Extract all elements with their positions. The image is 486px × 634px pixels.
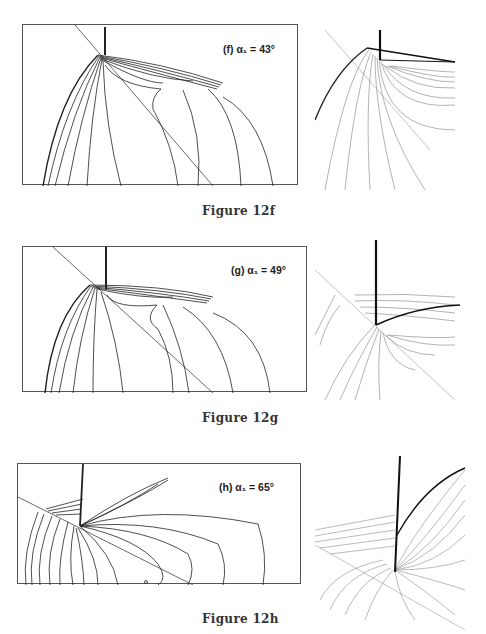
figure-12g-panel-label: (g) α₁ = 49° [231,264,286,276]
figure-12f: (f) α₁ = 43° Figure 12f [0,0,486,225]
figure-12h-caption: Figure 12h [202,612,279,626]
figure-12f-detail-contours [315,20,485,200]
figure-12h-panel-label: (h) α₁ = 65° [219,481,274,493]
figure-12g-contour-plot: (g) α₁ = 49° [22,246,307,392]
figure-12h-detail-contours [315,450,485,630]
figure-12g-detail-contours [315,235,485,415]
figure-12h-contour-plot: (h) α₁ = 65° [17,463,301,584]
figure-12h: (h) α₁ = 65° Figure 12 [0,430,486,634]
figure-12f-panel-label: (f) α₁ = 43° [223,43,275,55]
figure-12f-caption: Figure 12f [202,204,275,218]
figure-12g-caption: Figure 12g [202,411,278,425]
figure-12f-contour-plot: (f) α₁ = 43° [22,24,298,185]
figure-12g: (g) α₁ = 49° Figure 12g [0,225,486,430]
